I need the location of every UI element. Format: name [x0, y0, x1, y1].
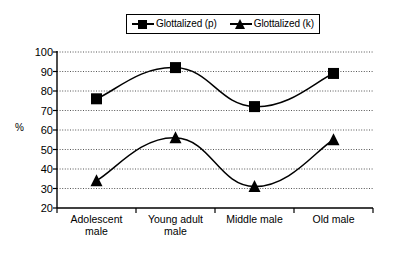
data-point-triangle: [328, 133, 340, 145]
series-line-2: [97, 138, 334, 187]
x-axis-tick-labels: Adolescent maleYoung adult maleMiddle ma…: [57, 213, 373, 253]
x-tick-label: Middle male: [215, 213, 294, 253]
data-point-square: [249, 101, 260, 112]
data-point-square: [170, 62, 181, 73]
data-series-layer: [91, 62, 340, 192]
x-tick-label: Old male: [294, 213, 373, 253]
x-tick-label: Adolescent male: [57, 213, 136, 253]
x-tick-label: Young adult male: [136, 213, 215, 253]
data-point-square: [328, 68, 339, 79]
line-chart: Glottalized (p) Glottalized (k) % 100908…: [0, 0, 394, 256]
series-line-1: [97, 68, 334, 107]
data-point-triangle: [91, 174, 103, 186]
gridlines: [57, 52, 373, 189]
data-point-square: [91, 93, 102, 104]
